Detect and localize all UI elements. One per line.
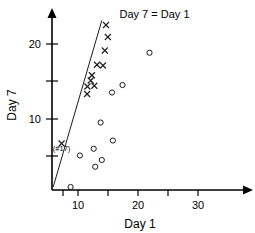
data-point-o bbox=[147, 50, 152, 55]
data-point-o bbox=[99, 157, 104, 162]
y-tick-label-10: 10 bbox=[29, 113, 41, 125]
x-tick-label-30: 30 bbox=[192, 199, 204, 211]
data-point-x bbox=[89, 72, 95, 78]
data-point-o bbox=[77, 153, 82, 158]
data-point-x bbox=[88, 78, 94, 84]
data-point-o bbox=[110, 138, 115, 143]
x-axis-arrowhead bbox=[243, 186, 253, 195]
plot-canvas: 10 20 30 10 20 Day 1 Day 7 Day 7 = Day 1… bbox=[0, 0, 255, 233]
data-point-o bbox=[120, 82, 125, 87]
series-x-markers bbox=[59, 22, 111, 147]
series-o-markers bbox=[68, 50, 152, 189]
y-tick-label-20: 20 bbox=[29, 38, 41, 50]
data-point-x bbox=[91, 83, 97, 89]
data-point-x bbox=[100, 63, 106, 69]
x-axis-title: Day 1 bbox=[124, 217, 156, 231]
point-17-label: (#17) bbox=[53, 144, 71, 153]
data-point-x bbox=[84, 84, 90, 90]
y-axis-arrowhead bbox=[48, 8, 57, 18]
x-tick-label-10: 10 bbox=[72, 199, 84, 211]
data-point-o bbox=[93, 164, 98, 169]
x-tick-label-20: 20 bbox=[132, 199, 144, 211]
y-axis-title: Day 7 bbox=[5, 89, 19, 121]
x-axis-ticks bbox=[63, 190, 198, 196]
data-point-x bbox=[84, 91, 90, 97]
identity-reference-line bbox=[53, 21, 102, 188]
data-point-o bbox=[109, 90, 114, 95]
scatter-plot-figure: 10 20 30 10 20 Day 1 Day 7 Day 7 = Day 1… bbox=[0, 0, 255, 233]
data-point-x bbox=[103, 22, 109, 28]
data-point-o bbox=[68, 184, 73, 189]
data-point-o bbox=[91, 146, 96, 151]
data-point-o bbox=[98, 120, 103, 125]
data-point-x bbox=[105, 34, 111, 40]
data-point-x bbox=[94, 62, 100, 68]
data-point-x bbox=[102, 48, 108, 54]
identity-line-label: Day 7 = Day 1 bbox=[120, 8, 190, 20]
